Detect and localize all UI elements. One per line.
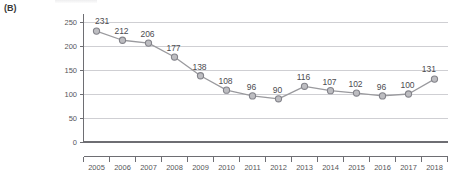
data-point-marker <box>327 88 333 94</box>
y-tick-label: 200 <box>64 42 77 51</box>
data-point-label: 100 <box>400 80 414 90</box>
data-point-label: 212 <box>114 26 128 36</box>
y-tick-label: 100 <box>64 90 77 99</box>
y-tick-label: 150 <box>64 66 77 75</box>
data-point-label: 131 <box>422 64 436 74</box>
data-point-label: 96 <box>247 82 257 92</box>
figure-panel-b: (B) 050100150200250 20052006200720082009… <box>0 0 450 180</box>
x-tick-label: 2007 <box>140 163 157 172</box>
data-point-marker <box>353 90 359 96</box>
x-tick-label: 2006 <box>114 163 131 172</box>
x-tick-label: 2016 <box>374 163 391 172</box>
data-point-label: 107 <box>322 77 336 87</box>
x-tick-label: 2014 <box>322 163 339 172</box>
data-point-label: 231 <box>95 16 109 26</box>
data-point-label: 90 <box>273 85 283 95</box>
x-tick-label: 2009 <box>192 163 209 172</box>
x-tick-label: 2011 <box>244 163 260 172</box>
y-axis-tick-labels: 050100150200250 <box>64 18 77 147</box>
data-point-label: 116 <box>297 72 311 82</box>
gridlines <box>84 22 448 142</box>
data-point-label: 177 <box>166 43 180 53</box>
data-point-marker <box>223 87 229 93</box>
data-point-label: 96 <box>377 82 387 92</box>
line-chart: 050100150200250 200520062007200820092010… <box>0 0 450 180</box>
data-point-marker <box>301 83 307 89</box>
data-point-label: 138 <box>192 62 206 72</box>
data-point-label: 206 <box>140 29 154 39</box>
x-tick-label: 2010 <box>218 163 235 172</box>
x-tick-label: 2005 <box>88 163 105 172</box>
y-tick-label: 250 <box>64 18 77 27</box>
x-tick-label: 2015 <box>348 163 365 172</box>
y-tick-label: 0 <box>73 138 77 147</box>
data-point-marker <box>119 37 125 43</box>
data-point-marker <box>93 28 99 34</box>
x-axis-ticks <box>84 157 448 162</box>
x-axis-tick-labels: 2005200620072008200920102011201220132014… <box>88 163 443 172</box>
x-tick-label: 2008 <box>166 163 183 172</box>
data-point-marker <box>145 40 151 46</box>
y-tick-label: 50 <box>69 114 77 123</box>
data-point-labels: 231212206177138108969011610710296100131 <box>95 16 436 95</box>
data-point-marker <box>379 93 385 99</box>
data-point-label: 102 <box>348 79 362 89</box>
data-point-marker <box>431 76 437 82</box>
x-tick-label: 2012 <box>270 163 287 172</box>
data-point-marker <box>275 96 281 102</box>
data-point-marker <box>405 91 411 97</box>
data-point-marker <box>171 54 177 60</box>
x-tick-label: 2018 <box>426 163 443 172</box>
data-point-marker <box>197 73 203 79</box>
data-point-marker <box>249 93 255 99</box>
x-tick-label: 2017 <box>400 163 417 172</box>
x-axis <box>84 142 448 157</box>
data-point-label: 108 <box>218 76 232 86</box>
x-tick-label: 2013 <box>296 163 313 172</box>
